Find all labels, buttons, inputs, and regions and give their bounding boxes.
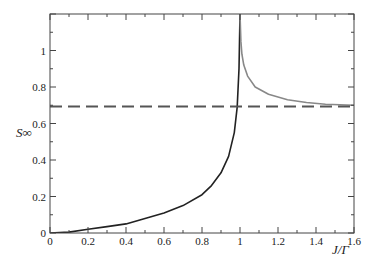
x-tick-label: 1: [237, 235, 243, 247]
y-tick-label: 0.4: [32, 154, 46, 166]
x-axis-label: J/Γ: [332, 242, 349, 257]
y-axis-label: S∞: [16, 125, 32, 140]
x-tick-label: 1.2: [271, 235, 285, 247]
x-tick-label: 0.8: [195, 235, 209, 247]
y-tick-label: 1: [41, 45, 47, 57]
axes: 00.20.40.60.811.21.41.600.20.40.60.81: [32, 14, 361, 247]
y-tick-label: 0.2: [32, 191, 46, 203]
plot-area: [50, 14, 354, 233]
x-tick-label: 1.6: [347, 235, 361, 247]
x-tick-label: 0: [47, 235, 53, 247]
x-tick-label: 0.4: [119, 235, 133, 247]
chart: 00.20.40.60.811.21.41.600.20.40.60.81 J/…: [0, 0, 373, 272]
series-line-1: [240, 14, 354, 105]
y-tick-label: 0.6: [32, 118, 46, 130]
series-line-0: [50, 14, 240, 233]
y-tick-label: 0.8: [32, 81, 46, 93]
y-tick-label: 0: [41, 227, 47, 239]
x-tick-label: 0.6: [157, 235, 171, 247]
x-tick-label: 0.2: [81, 235, 95, 247]
x-tick-label: 1.4: [309, 235, 323, 247]
